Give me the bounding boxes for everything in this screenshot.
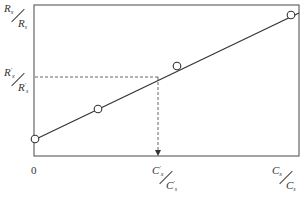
data-point bbox=[173, 62, 181, 70]
y-mid-den: R bbox=[18, 81, 25, 93]
y-mid-num-sub: x bbox=[12, 73, 15, 79]
x-mid-num-sub: x bbox=[161, 171, 164, 177]
arrow-down-icon bbox=[155, 150, 161, 156]
y-top-num-sub: x bbox=[11, 9, 14, 15]
fit-line bbox=[34, 13, 299, 140]
y-label-mid: R'x R's bbox=[4, 66, 32, 94]
y-top-den: R bbox=[18, 17, 25, 29]
x-mid-den-sub: s bbox=[175, 186, 177, 192]
data-point bbox=[31, 135, 39, 143]
data-point bbox=[287, 11, 295, 19]
x-label-origin: 0 bbox=[31, 164, 37, 176]
plot-frame bbox=[34, 5, 299, 156]
y-mid-num: R bbox=[4, 66, 11, 78]
y-top-num: R bbox=[4, 2, 11, 14]
y-mid-den-sub: s bbox=[26, 88, 28, 94]
x-right-den-sub: s bbox=[293, 186, 295, 192]
y-top-den-sub: s bbox=[25, 24, 27, 30]
x-label-right: Cx Cs bbox=[272, 164, 300, 192]
data-point bbox=[94, 105, 102, 113]
y-label-top: Rx Rs bbox=[4, 2, 32, 30]
x-label-mid: C'x C's bbox=[152, 164, 180, 192]
x-right-num-sub: x bbox=[279, 171, 282, 177]
